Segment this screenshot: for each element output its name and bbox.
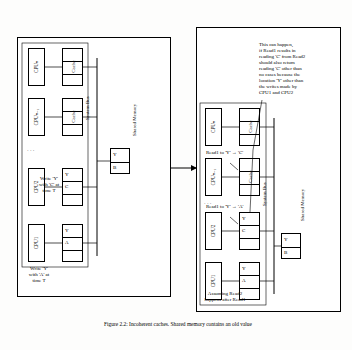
left-cache-n: Cache — [62, 48, 83, 86]
right-cache-n: Cache — [239, 108, 260, 146]
right-memory-label: Shared Memory — [300, 189, 306, 221]
left-cache-1: Y A — [62, 224, 83, 262]
right-cpu-1-label: CPU1 — [211, 275, 217, 288]
left-cpu-n-1-label: CPUₙ₋₁ — [34, 109, 40, 126]
left-cache-2-cell-y: Y — [65, 172, 69, 178]
right-read1-note-lower: Read1 to 'Y' → 'A' — [206, 204, 244, 210]
right-cache-n-1-label: Cache — [248, 160, 253, 194]
right-cpu-2: CPU2 — [205, 212, 222, 250]
left-cache-1-cell-a: A — [65, 240, 69, 246]
left-cache-1-cell-y: Y — [65, 228, 69, 234]
right-cache-2-cell-y: Y — [242, 216, 246, 222]
left-cpu2-write-note: Write 'Y' with 'C' at time T — [36, 176, 62, 193]
right-cpu-n: CPUₙ — [205, 108, 222, 146]
right-read1-note-upper: Read1 to 'Y' → 'C' — [206, 150, 243, 156]
right-cache-1-cell-y: Y — [242, 266, 246, 272]
figure-caption: Figure 2.2: Incoherent caches. Shared me… — [18, 321, 338, 327]
left-cpu-n-label: CPUₙ — [34, 61, 40, 73]
left-cpu-n: CPUₙ — [28, 48, 45, 86]
right-cpu-n-label: CPUₙ — [211, 121, 217, 133]
right-cpu-n-1: CPUₙ₋₁ — [205, 158, 222, 196]
left-shared-memory: Y B — [110, 148, 130, 174]
left-cpu-ellipsis: · · · — [27, 148, 35, 154]
right-bus-label: System Bus — [262, 182, 268, 206]
right-cache-n-label: Cache — [248, 110, 253, 144]
left-cpu-1-label: CPU1 — [34, 237, 40, 250]
right-cache-1-cell-a: A — [242, 278, 246, 284]
left-cache-n-label: Cache — [71, 50, 76, 84]
left-memory-cell-y: Y — [113, 152, 117, 158]
left-cache-n-1: Cache — [62, 98, 83, 136]
left-cpu1-write-note: Write 'Y' with 'A' at time T — [23, 266, 55, 283]
right-cpu-n-1-label: CPUₙ₋₁ — [211, 169, 217, 186]
right-cache-2: Y C — [239, 212, 260, 250]
right-cpu-2-label: CPU2 — [211, 225, 217, 238]
left-memory-cell-b: B — [113, 165, 116, 171]
right-callout-text: This can happen, if Read1 results in rea… — [259, 42, 315, 96]
left-cache-2: Y C — [62, 168, 83, 206]
right-memory-cell-y: Y — [284, 237, 288, 243]
right-cache-n-1: Cache — [239, 158, 260, 196]
left-cache-n-1-label: Cache — [71, 100, 76, 134]
left-bus-label: System Bus — [85, 96, 91, 120]
right-shared-memory: Y B — [281, 233, 301, 259]
left-memory-label: Shared Memory — [132, 104, 138, 136]
right-memory-cell-b: B — [284, 250, 287, 256]
left-cache-2-cell-c: C — [65, 184, 68, 190]
left-cpu-n-1: CPUₙ₋₁ — [28, 98, 45, 136]
right-cache-2-cell-c: C — [242, 228, 245, 234]
right-footer-note: Assuming Read2 happens after Read1 — [200, 291, 250, 303]
left-cpu-1: CPU1 — [28, 224, 45, 262]
